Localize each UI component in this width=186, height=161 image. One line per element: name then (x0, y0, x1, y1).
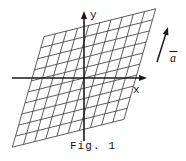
x-axis (12, 75, 147, 81)
vector-arrow (157, 27, 168, 62)
y-axis-label: y (90, 9, 97, 21)
vector-label: a (170, 51, 176, 65)
vector-shaft (157, 33, 166, 62)
figure-caption: Fig. 1 (0, 140, 186, 152)
y-axis-arrowhead (81, 11, 87, 19)
coordinate-figure: x y a (0, 0, 186, 161)
x-axis-label: x (133, 84, 140, 96)
vector-label-group: a (170, 51, 178, 65)
vector-arrowhead (163, 27, 169, 36)
figure-container: x y a Fig. 1 (0, 0, 186, 161)
x-axis-arrowhead (139, 75, 147, 81)
